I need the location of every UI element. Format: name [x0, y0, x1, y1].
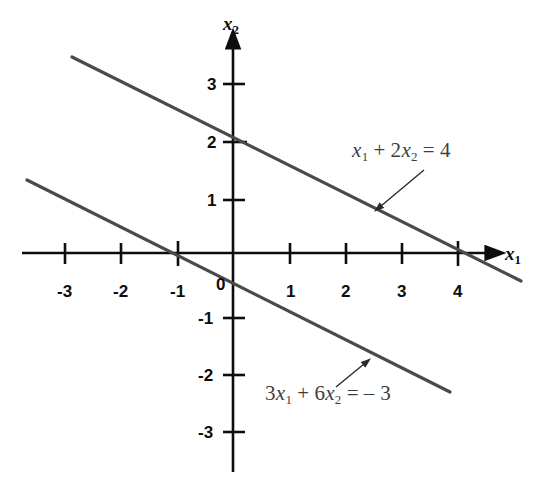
eq2-coef2: 6 — [314, 381, 325, 405]
eq1-equals: = — [423, 138, 435, 162]
eq1-var1: x — [352, 138, 362, 162]
origin-label: 0 — [216, 276, 225, 293]
x-axis-label: x1 — [505, 244, 521, 267]
equation-label-line2: 3x1+6x2=– 3 — [265, 383, 391, 406]
x-axis-label-var: x — [505, 243, 515, 264]
eq2-var1: x — [276, 381, 286, 405]
y-axis-ticks — [223, 84, 247, 432]
eq2-coef1: 3 — [265, 381, 276, 405]
y-tick-label-2: 2 — [207, 134, 216, 151]
eq2-var2: x — [325, 381, 335, 405]
eq2-plus: + — [297, 381, 309, 405]
line-3x1-plus-6x2-equals-minus3 — [27, 180, 450, 392]
eq1-rhs: 4 — [440, 138, 451, 162]
linear-equations-plot: -3 -2 -1 1 2 3 4 0 3 2 1 -1 -2 -3 x2 x1 … — [0, 0, 547, 498]
eq1-var2: x — [401, 138, 411, 162]
x-tick-label--3: -3 — [57, 283, 72, 300]
x-tick-label-2: 2 — [341, 283, 350, 300]
y-axis-label-var: x — [223, 13, 233, 34]
y-axis-label: x2 — [223, 14, 239, 37]
y-tick-label-1: 1 — [207, 192, 216, 209]
line-x1-plus-2x2-equals-4 — [72, 57, 521, 281]
x-axis-label-subscript: 1 — [515, 252, 521, 267]
eq1-plus: + — [373, 138, 385, 162]
eq2-rhs: – 3 — [364, 381, 391, 405]
y-tick-label--3: -3 — [198, 424, 213, 441]
y-axis-label-subscript: 2 — [233, 22, 239, 37]
eq1-sub1: 1 — [362, 149, 369, 164]
eq2-sub1: 1 — [285, 392, 292, 407]
x-tick-label--1: -1 — [170, 283, 185, 300]
y-tick-label--1: -1 — [198, 310, 213, 327]
eq2-sub2: 2 — [335, 392, 342, 407]
eq1-coef2: 2 — [391, 138, 402, 162]
x-tick-label--2: -2 — [113, 283, 128, 300]
x-tick-label-3: 3 — [397, 283, 406, 300]
y-tick-label-3: 3 — [207, 76, 216, 93]
x-tick-label-4: 4 — [453, 283, 462, 300]
y-tick-label--2: -2 — [198, 367, 213, 384]
x-tick-label-1: 1 — [286, 283, 295, 300]
eq1-sub2: 2 — [411, 149, 418, 164]
equation-label-line1: x1+2x2=4 — [352, 140, 451, 163]
eq2-equals: = — [347, 381, 359, 405]
annotation-arrow-line1 — [381, 170, 424, 206]
plot-canvas — [0, 0, 547, 498]
